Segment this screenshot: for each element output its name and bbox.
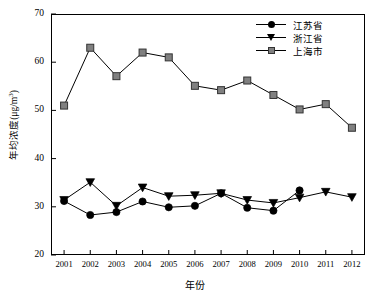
- y-tick-label: 70: [20, 9, 44, 19]
- legend-item-2[interactable]: 浙江省: [256, 31, 356, 44]
- y-tick-label: 20: [20, 250, 44, 260]
- y-axis-exponent: 3: [7, 93, 15, 97]
- legend-label: 上海市: [293, 44, 323, 58]
- legend-marker-triangle-down-icon: [256, 31, 286, 44]
- legend-symbol: [268, 47, 275, 54]
- y-axis-title-text: 年均浓度(: [9, 117, 19, 160]
- legend-symbol: [268, 21, 275, 28]
- y-axis-title: 年均浓度(μg/m3): [6, 65, 20, 185]
- legend-symbol: [267, 34, 275, 41]
- y-axis-unit: μg/m: [9, 97, 19, 117]
- legend-item-3[interactable]: 上海市: [256, 44, 356, 57]
- series-markers: [60, 44, 356, 218]
- y-axis-title-close: ): [9, 90, 19, 93]
- legend-item-1[interactable]: 江苏省: [256, 18, 356, 31]
- y-tick-label: 60: [20, 57, 44, 67]
- legend-label: 江苏省: [293, 18, 323, 32]
- y-tick-label: 30: [20, 202, 44, 212]
- legend-marker-circle-icon: [256, 18, 286, 31]
- x-axis-title: 年份: [0, 277, 389, 292]
- y-tick-label: 50: [20, 105, 44, 115]
- x-tick-label: 2012: [335, 260, 369, 269]
- series-lines: [64, 48, 352, 215]
- chart-figure: 203040506070 200120022003200420052006200…: [0, 0, 389, 299]
- legend-label: 浙江省: [293, 31, 323, 45]
- chart-legend: 江苏省浙江省上海市: [252, 15, 360, 60]
- y-tick-label: 40: [20, 154, 44, 164]
- legend-marker-square-icon: [256, 44, 286, 57]
